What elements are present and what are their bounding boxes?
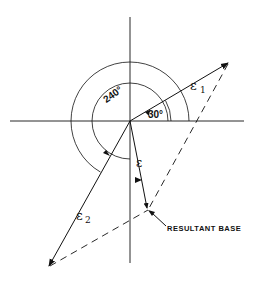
label-e1: ε <box>190 78 197 93</box>
label-resultant: ε <box>136 156 142 170</box>
label-30: 30° <box>148 109 163 120</box>
label-resultant-base: RESULTANT BASE <box>167 224 241 233</box>
phasor-diagram: 240° 30° ε 1 ε 2 ε RESULTANT BASE <box>0 0 264 281</box>
dashed-line-e1-tip <box>148 64 228 210</box>
label-240: 240° <box>101 84 124 105</box>
vector-e2 <box>49 121 130 266</box>
vector-e1 <box>130 63 228 121</box>
label-e2-sub: 2 <box>85 215 91 225</box>
label-e2: ε <box>76 208 83 223</box>
label-e1-sub: 1 <box>200 85 206 95</box>
resultant-base-leader <box>152 213 166 226</box>
